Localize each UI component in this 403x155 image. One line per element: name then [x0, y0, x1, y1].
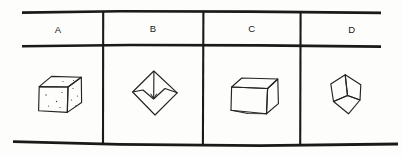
figure-c-plain-box: [231, 78, 278, 114]
figure-a-speckles: [45, 80, 78, 108]
figure-d-bottom-face: [334, 96, 361, 114]
figure-d-corner-view-cube: [331, 75, 361, 114]
figure-c-front-face: [231, 87, 268, 114]
header-cell-c: C: [248, 23, 255, 34]
figure-c-top-face: [232, 78, 278, 89]
figure-a-front-face: [39, 87, 68, 113]
figure-b-outer-diamond: [133, 71, 178, 115]
divider-2: [203, 12, 204, 146]
header-cell-d: D: [348, 24, 355, 35]
figure-a-speckled-cube: [39, 76, 82, 112]
figure-c-right-face: [267, 79, 279, 114]
bottom-rule: [13, 142, 398, 146]
header-cell-b: B: [150, 23, 157, 34]
header-rule: [22, 45, 381, 47]
figure-d-left-face: [331, 75, 348, 102]
header-row: A B C D: [55, 23, 356, 35]
answer-choice-diagram: A B C D: [0, 0, 403, 155]
figure-a-right-face: [67, 77, 81, 112]
diagram-canvas: A B C D: [0, 0, 403, 155]
top-rule: [22, 11, 381, 13]
figure-b-notched-diamond: [133, 71, 178, 115]
header-cell-a: A: [55, 24, 62, 35]
figure-d-center-vertex: [347, 95, 349, 97]
